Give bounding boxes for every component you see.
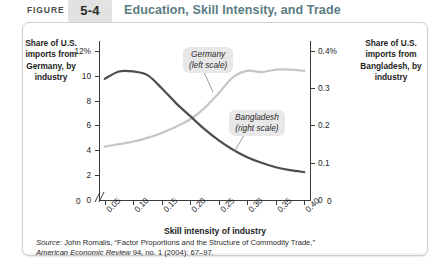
right-tick-label: 0.1: [318, 158, 330, 168]
right-tick: [311, 163, 315, 164]
left-tick-label: 10: [55, 71, 91, 81]
left-tick-label: 2: [55, 170, 91, 180]
right-axis-origin-label: 0: [327, 196, 332, 206]
right-tick-label: 0.4%: [318, 46, 337, 56]
figure-header: FIGURE 5-4 Education, Skill Intensity, a…: [0, 0, 434, 22]
figure-word-label: FIGURE: [27, 5, 65, 15]
source-text-2: 94, no. 1 (2004): 67–97.: [131, 248, 214, 257]
source-text-1: John Romalis, “Factor Proportions and th…: [62, 238, 315, 247]
left-tick-label: 6: [55, 120, 91, 130]
right-tick: [311, 88, 315, 89]
germany-callout-pointer: [183, 70, 223, 100]
right-tick-label: 0.3: [318, 83, 330, 93]
left-tick-label: 0: [55, 195, 91, 205]
source-label: Source:: [36, 238, 62, 247]
figure-number: 5-4: [68, 3, 112, 18]
right-tick-label: 0.2: [318, 120, 330, 130]
right-axis-title: Share of U.S. imports from Bangladesh, b…: [352, 38, 430, 84]
left-tick-label: 8: [55, 96, 91, 106]
left-tick-label: 4: [55, 145, 91, 155]
right-tick: [311, 125, 315, 126]
left-tick-label: 12%: [55, 46, 91, 56]
bangladesh-callout-line1: Bangladesh: [235, 112, 279, 122]
bangladesh-callout: Bangladesh (right scale): [229, 110, 285, 136]
left-axis-origin-label: 0: [76, 196, 81, 206]
figure-container: FIGURE 5-4 Education, Skill Intensity, a…: [0, 0, 434, 278]
germany-callout-line1: Germany: [191, 49, 225, 59]
right-axis-line: [310, 41, 311, 201]
right-tick: [311, 51, 315, 52]
axis-break-icon: [92, 190, 108, 204]
figure-title: Education, Skill Intensity, and Trade: [124, 3, 341, 17]
bangladesh-callout-line2: (right scale): [235, 123, 278, 133]
x-axis-title: Skill intensity of industry: [120, 226, 310, 236]
germany-callout: Germany (left scale): [183, 47, 233, 73]
germany-callout-line2: (left scale): [189, 60, 227, 70]
source-note: Source: John Romalis, “Factor Proportion…: [36, 238, 416, 259]
source-journal: American Economic Review: [36, 248, 131, 257]
